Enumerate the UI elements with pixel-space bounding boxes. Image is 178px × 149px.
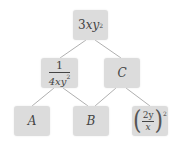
edge-left-a bbox=[32, 88, 54, 106]
right-paren: ) bbox=[154, 108, 163, 133]
edge-c-right bbox=[126, 88, 150, 106]
right-denominator: x bbox=[146, 122, 151, 132]
edge-left-b bbox=[63, 88, 88, 106]
right-exp: 2 bbox=[163, 110, 167, 117]
left-numerator: 1 bbox=[55, 60, 64, 72]
left-paren: ( bbox=[133, 108, 142, 133]
node-c: C bbox=[104, 58, 140, 88]
node-left: 1 4xy2 bbox=[41, 58, 78, 88]
node-c-label: C bbox=[117, 66, 126, 80]
edge-root-left bbox=[60, 40, 86, 58]
node-a: A bbox=[14, 106, 50, 136]
root-coef: 3 bbox=[78, 18, 86, 32]
node-right: ( 2y x ) 2 bbox=[132, 106, 168, 136]
edge-root-c bbox=[95, 40, 121, 58]
right-numerator: 2y bbox=[142, 111, 155, 121]
root-var: xy bbox=[86, 18, 100, 32]
root-exp: 2 bbox=[99, 22, 103, 29]
node-root: 3xy2 bbox=[73, 10, 108, 40]
right-fraction: 2y x bbox=[142, 111, 155, 132]
fraction: 1 4xy2 bbox=[49, 60, 70, 87]
left-den-exp: 2 bbox=[66, 73, 70, 80]
node-b: B bbox=[73, 106, 109, 136]
edge-c-b bbox=[95, 88, 116, 106]
left-denominator: 4xy2 bbox=[49, 73, 70, 87]
node-a-label: A bbox=[28, 114, 37, 128]
left-den-var: 4xy bbox=[49, 76, 67, 87]
node-b-label: B bbox=[87, 114, 96, 128]
